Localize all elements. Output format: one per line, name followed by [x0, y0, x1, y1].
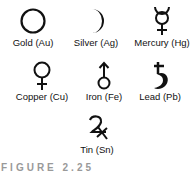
symbol-copper: Copper (Cu) [10, 60, 74, 102]
symbol-silver: Silver (Ag) [64, 6, 128, 48]
symbol-label: Gold (Au) [1, 37, 65, 48]
mars-icon [89, 60, 119, 90]
symbol-gold: Gold (Au) [1, 6, 65, 48]
symbol-lead: Lead (Pb) [128, 60, 192, 102]
crescent-moon-icon [81, 6, 111, 36]
symbol-label: Iron (Fe) [72, 91, 136, 102]
symbol-label: Mercury (Hg) [130, 37, 194, 48]
symbol-label: Tin (Sn) [65, 144, 129, 155]
symbol-tin: Tin (Sn) [65, 113, 129, 155]
symbol-mercury: Mercury (Hg) [130, 6, 194, 48]
circle-icon [18, 6, 48, 36]
symbol-label: Silver (Ag) [64, 37, 128, 48]
mercury-icon [147, 6, 177, 36]
venus-icon [27, 60, 57, 90]
symbol-label: Lead (Pb) [128, 91, 192, 102]
jupiter-icon [82, 113, 112, 143]
symbol-label: Copper (Cu) [10, 91, 74, 102]
symbol-iron: Iron (Fe) [72, 60, 136, 102]
saturn-icon [145, 60, 175, 90]
figure-caption: FIGURE 2.25 [1, 162, 94, 173]
